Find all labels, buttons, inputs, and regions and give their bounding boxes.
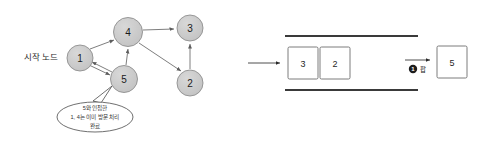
- node-2[interactable]: 2: [177, 70, 203, 96]
- popped-group: 1 팝 5: [405, 46, 467, 78]
- node-1-label: 1: [77, 53, 83, 64]
- edge-5-to-4: [126, 49, 128, 65]
- node-3[interactable]: 3: [177, 15, 203, 41]
- node-5[interactable]: 5: [111, 66, 138, 93]
- stack-item-2-label: 2: [332, 59, 337, 69]
- callout-line-3: 완료: [90, 122, 100, 129]
- edge-4-to-2: [139, 43, 181, 71]
- stack-item-2[interactable]: 2: [320, 47, 350, 79]
- pop-operation-label: 팝: [420, 65, 426, 73]
- stack-item-3-label: 3: [300, 59, 305, 69]
- popped-item-5-label: 5: [449, 58, 454, 68]
- node-2-label: 2: [187, 78, 193, 89]
- edge-1-to-5: [89, 65, 110, 75]
- dfs-diagram: 1 4 3 5 2 시작 노드: [0, 0, 491, 149]
- diagram-canvas: 1 4 3 5 2 시작 노드: [0, 0, 491, 149]
- graph-group: 1 4 3 5 2 시작 노드: [24, 15, 203, 96]
- node-4-label: 4: [125, 27, 131, 38]
- callout-bubble: 5와 인접한 1, 4는 이미 방문 처리 완료: [57, 86, 133, 132]
- stack-group: 3 2: [248, 36, 418, 90]
- popped-item-5[interactable]: 5: [437, 46, 467, 78]
- callout-line-1: 5와 인접한: [83, 104, 108, 112]
- node-5-label: 5: [121, 74, 127, 85]
- edge-4-to-3: [143, 29, 174, 30]
- node-4[interactable]: 4: [114, 18, 143, 47]
- node-3-label: 3: [187, 23, 193, 34]
- callout-tail: [93, 86, 112, 103]
- node-1[interactable]: 1: [67, 45, 93, 71]
- start-node-label: 시작 노드: [24, 52, 58, 62]
- stack-item-3[interactable]: 3: [288, 47, 318, 79]
- edge-5-to-1: [92, 62, 112, 72]
- edge-1-to-4: [90, 40, 114, 49]
- callout-line-2: 1, 4는 이미 방문 처리: [71, 113, 120, 121]
